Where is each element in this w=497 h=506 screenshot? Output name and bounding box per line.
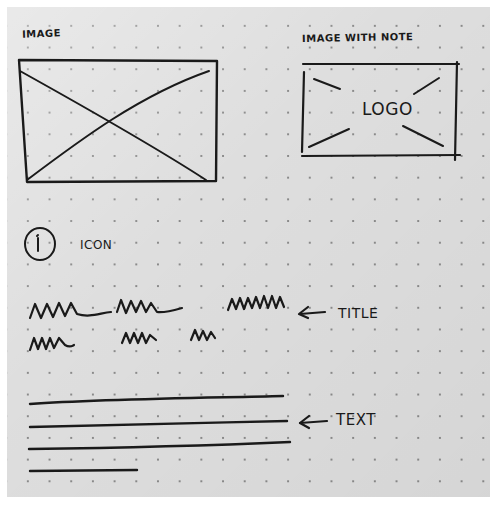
text-arrow-icon — [300, 416, 327, 428]
title-arrow-icon — [299, 307, 325, 318]
text-lines — [29, 396, 290, 471]
image-label: IMAGE — [22, 27, 61, 39]
title-annotation: TITLE — [338, 305, 378, 321]
info-circle-icon — [25, 228, 55, 260]
text-annotation: TEXT — [336, 411, 376, 429]
image-placeholder — [19, 60, 217, 182]
icon-label: ICON — [80, 238, 112, 252]
image-with-note-label: IMAGE WITH NOTE — [302, 31, 414, 44]
sketch-drawing — [0, 0, 497, 506]
title-squiggles — [30, 296, 284, 350]
logo-note-text: LOGO — [362, 99, 413, 119]
